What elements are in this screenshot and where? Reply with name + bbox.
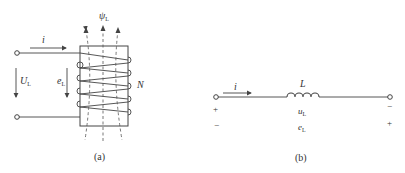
right-top-sign: − (387, 101, 392, 111)
terminal-top (15, 51, 20, 56)
coil-winding (77, 53, 131, 115)
turns-label: N (136, 79, 145, 90)
flux-lines (85, 28, 122, 142)
left-bottom-sign: − (214, 120, 219, 130)
current-label: i (234, 81, 237, 92)
right-bottom-sign: + (387, 118, 392, 128)
figure-a: i UL eL (15, 10, 145, 163)
caption-a: (a) (94, 151, 105, 163)
flux-arrow-icons (84, 25, 121, 33)
current-label: i (42, 34, 45, 45)
emf-label: eL (298, 122, 306, 133)
inductor-label: L (299, 78, 306, 89)
emf-label: eL (57, 75, 65, 87)
figure-b: i L uL eL + − − + (b) (213, 78, 392, 164)
caption-b: (b) (295, 152, 307, 164)
magnetic-core (80, 46, 128, 126)
left-top-sign: + (213, 104, 218, 114)
inductor-diagram: i UL eL (0, 0, 405, 173)
terminal-left (214, 95, 219, 100)
terminal-bottom (15, 115, 20, 120)
voltage-label: uL (298, 106, 307, 117)
voltage-label: UL (20, 75, 31, 87)
inductor-icon (287, 93, 319, 97)
terminal-right (388, 95, 393, 100)
flux-label: ψL (99, 10, 109, 22)
